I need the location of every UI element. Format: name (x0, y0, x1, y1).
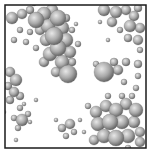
sphere (137, 47, 143, 53)
sphere (105, 93, 111, 99)
sphere (106, 38, 110, 42)
sphere (23, 39, 29, 45)
sphere (17, 27, 23, 33)
sphere-rendering (0, 0, 150, 155)
sphere (50, 10, 66, 26)
sphere (113, 65, 123, 75)
sphere (10, 74, 22, 86)
sphere (129, 11, 139, 21)
sphere (135, 73, 141, 79)
sphere (129, 103, 143, 117)
sphere (119, 93, 125, 99)
sphere (108, 130, 124, 146)
sphere (14, 138, 18, 142)
sphere (133, 35, 143, 45)
sphere (16, 114, 28, 126)
sphere (124, 34, 132, 42)
sphere (128, 116, 140, 128)
sphere (135, 137, 145, 147)
sphere (63, 133, 69, 139)
sphere (58, 124, 66, 132)
sphere (45, 27, 63, 45)
sphere (135, 127, 145, 137)
sphere (69, 27, 75, 33)
sphere (94, 62, 114, 82)
sphere (82, 130, 86, 134)
sphere (27, 29, 33, 35)
sphere (85, 103, 91, 109)
sphere (9, 87, 19, 97)
sphere (74, 22, 78, 26)
sphere (6, 12, 18, 24)
sphere (33, 45, 39, 51)
sphere (124, 20, 136, 32)
sphere (135, 23, 145, 33)
sphere (15, 125, 21, 131)
sphere (122, 58, 130, 66)
sphere (98, 4, 110, 16)
sphere (17, 9, 27, 19)
sphere (129, 93, 135, 99)
sphere (98, 20, 102, 24)
sphere (110, 6, 122, 18)
sphere (65, 119, 75, 129)
sphere (75, 41, 81, 47)
sphere (54, 118, 58, 122)
sphere (117, 27, 123, 33)
sphere (28, 12, 44, 28)
sphere (22, 102, 26, 106)
sphere (68, 58, 76, 66)
sphere (78, 118, 82, 122)
sphere (133, 85, 139, 91)
sphere (71, 129, 77, 135)
sphere (17, 105, 23, 111)
sphere (59, 65, 77, 83)
sphere (134, 60, 142, 68)
sphere (102, 114, 118, 130)
sphere (107, 17, 117, 27)
sphere (110, 58, 118, 66)
sphere (28, 120, 32, 124)
sphere (11, 37, 17, 43)
sphere (6, 96, 14, 104)
sphere (121, 79, 127, 85)
sphere (34, 98, 38, 102)
